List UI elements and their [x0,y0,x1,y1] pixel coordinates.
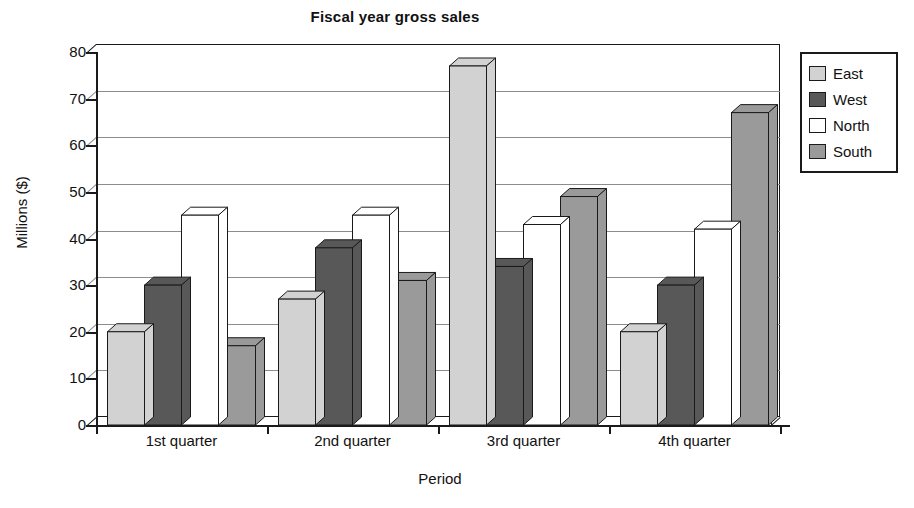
x-tick-label: 3rd quarter [444,432,604,449]
gridline [96,231,780,232]
chart-title: Fiscal year gross sales [0,8,790,25]
y-tick-mark [86,378,96,380]
legend-item-west[interactable]: West [809,86,889,112]
y-tick-mark [86,239,96,241]
x-tick-mark [96,425,98,434]
legend-swatch-south [809,144,826,159]
x-axis-title: Period [90,470,790,487]
x-tick-mark [780,425,782,434]
y-tick-label: 20 [50,323,86,340]
y-tick-mark [86,52,96,54]
y-tick-label: 30 [50,276,86,293]
y-tick-mark [86,145,96,147]
gridline [96,184,780,185]
y-axis-title: Millions ($) [6,0,36,425]
plot-right-edge [771,417,772,425]
legend-label: East [833,65,863,82]
y-tick-label: 50 [50,183,86,200]
legend-label: West [833,91,867,108]
gridline [96,370,780,371]
legend-swatch-north [809,118,826,133]
bar-chart: Fiscal year gross sales Millions ($) 010… [0,0,914,508]
y-tick-mark [86,99,96,101]
x-tick-mark [438,425,440,434]
x-tick-mark [267,425,269,434]
legend-label: South [833,143,872,160]
y-axis-title-text: Millions ($) [13,176,30,249]
gridline [96,91,780,92]
y-tick-label: 10 [50,369,86,386]
gridline [96,137,780,138]
y-tick-mark [86,192,96,194]
legend-swatch-east [809,66,826,81]
legend: EastWestNorthSouth [800,52,898,173]
legend-swatch-west [809,92,826,107]
gridline [96,277,780,278]
x-tick-label: 1st quarter [102,432,262,449]
y-tick-label: 0 [50,416,86,433]
legend-label: North [833,117,870,134]
legend-item-east[interactable]: East [809,60,889,86]
legend-item-south[interactable]: South [809,138,889,164]
y-tick-label: 60 [50,136,86,153]
x-tick-label: 2nd quarter [273,432,433,449]
y-tick-mark [86,285,96,287]
x-tick-label: 4th quarter [615,432,775,449]
y-tick-label: 40 [50,230,86,247]
y-axis-line [96,52,98,426]
legend-item-north[interactable]: North [809,112,889,138]
y-tick-label: 70 [50,90,86,107]
x-tick-mark [609,425,611,434]
y-tick-mark [86,332,96,334]
y-tick-label: 80 [50,43,86,60]
gridline [96,324,780,325]
